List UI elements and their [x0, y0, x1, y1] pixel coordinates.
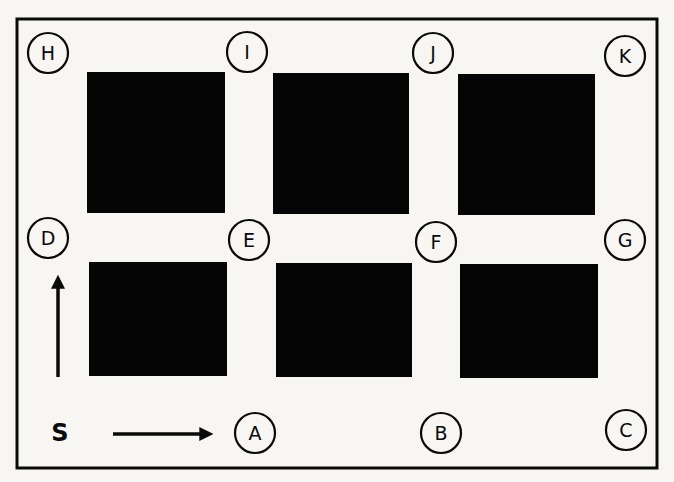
grid-route-diagram: HIJKDEFGABC S	[0, 0, 674, 482]
node-b: B	[421, 413, 461, 453]
city-blocks	[87, 72, 598, 378]
node-e: E	[229, 220, 269, 260]
start-label-s: S	[51, 419, 68, 447]
node-label: D	[41, 227, 56, 249]
node-label: J	[429, 42, 436, 64]
node-a: A	[235, 413, 275, 453]
node-label: G	[618, 229, 633, 251]
node-label: I	[244, 41, 250, 63]
node-label: K	[619, 45, 632, 67]
node-label: A	[249, 422, 262, 444]
block-bottom-left	[89, 262, 227, 376]
node-k: K	[605, 36, 645, 76]
block-top-middle	[273, 73, 409, 214]
node-label: H	[41, 42, 55, 64]
node-h: H	[28, 33, 68, 73]
node-label: E	[243, 229, 255, 251]
node-label: C	[619, 419, 632, 441]
node-c: C	[606, 410, 646, 450]
block-bottom-middle	[276, 263, 412, 377]
node-f: F	[416, 222, 456, 262]
node-g: G	[605, 220, 645, 260]
node-d: D	[28, 218, 68, 258]
block-top-right	[458, 74, 595, 215]
node-label: B	[434, 422, 447, 444]
node-i: I	[227, 32, 267, 72]
node-j: J	[413, 33, 453, 73]
node-label: F	[431, 231, 442, 253]
block-bottom-right	[460, 264, 598, 378]
block-top-left	[87, 72, 225, 213]
